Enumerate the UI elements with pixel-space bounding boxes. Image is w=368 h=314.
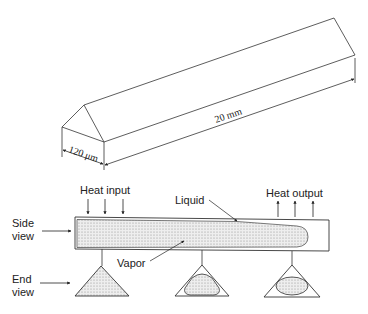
heat-pipe-diagram: 120 μm 20 mm Side view Heat input Heat o…	[0, 0, 368, 314]
liquid-label: Liquid	[175, 194, 204, 206]
end-view-vapor-core	[185, 274, 220, 295]
diagram-canvas: 120 μm 20 mm Side view Heat input Heat o…	[0, 0, 368, 314]
end-view-label-line1: End	[12, 273, 32, 285]
end-view-triangle	[75, 266, 129, 296]
prism-ridge-edge	[84, 18, 334, 105]
heat-output-arrows	[278, 201, 313, 217]
side-view-label-line2: view	[12, 230, 34, 242]
heat-output-label: Heat output	[266, 187, 323, 199]
prism-bottom-edge	[104, 55, 355, 142]
vapor-label: Vapor	[117, 257, 146, 269]
side-view: Side view Heat input Heat output Liquid …	[12, 184, 329, 269]
side-view-label-line1: Side	[12, 217, 34, 229]
end-view-condenser	[264, 265, 320, 297]
prism-front-face	[62, 105, 104, 142]
width-label: 120 μm	[67, 143, 100, 163]
end-view-label-line2: view	[12, 286, 34, 298]
end-view-adiabatic	[175, 265, 229, 296]
prism-back-edge	[334, 18, 355, 55]
heat-input-arrows	[88, 199, 123, 214]
length-label: 20 mm	[213, 105, 243, 125]
heat-input-label: Heat input	[80, 184, 130, 196]
end-view-vapor-core	[276, 277, 308, 295]
end-views: End view	[12, 249, 320, 298]
liquid-leader-line	[209, 200, 237, 221]
end-view-evaporator	[75, 266, 129, 296]
length-dimension-arrow	[105, 79, 354, 165]
prism-3d	[62, 18, 355, 170]
